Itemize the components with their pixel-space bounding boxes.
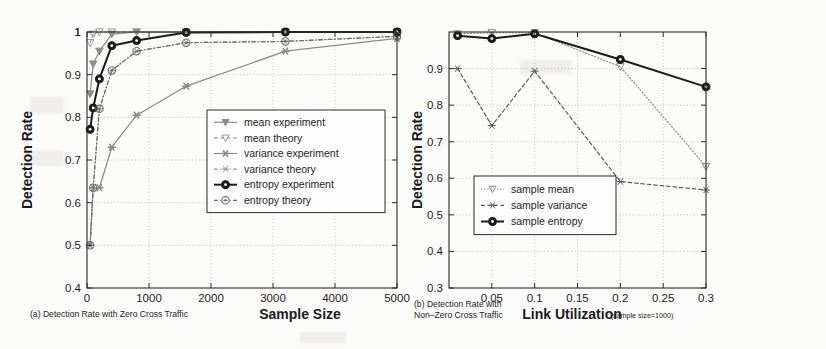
x-tick-label: 5000: [384, 292, 410, 304]
x-tick-label: 0.2: [612, 292, 628, 304]
legend-label: variance theory: [244, 163, 317, 175]
y-tick-label: 0.4: [427, 245, 444, 257]
y-tick-label: 0.9: [427, 63, 443, 75]
x-tick-label: 0.25: [652, 292, 674, 304]
chart-a: 0.40.50.60.70.80.91101000200030004000500…: [0, 0, 414, 349]
x-tick-label: 2000: [198, 292, 224, 304]
series-sample-variance: [454, 66, 710, 193]
y-tick-label: 0.6: [65, 197, 81, 209]
panel-a-caption: (a) Detection Rate with Zero Cross Traff…: [30, 309, 189, 319]
legend-label: sample mean: [511, 183, 574, 195]
panel-b-sample-size-note: (sample size=1000): [611, 311, 674, 320]
x-tick-label: 0: [84, 292, 90, 304]
y-tick-label: 0.7: [65, 154, 81, 166]
x-tick-label: 0.3: [698, 292, 714, 304]
legend-label: sample variance: [511, 199, 588, 211]
y-tick-label: 0.3: [427, 282, 443, 294]
y-tick-label: 0.8: [65, 111, 81, 123]
panel-a-zero-cross-traffic: 0.40.50.60.70.80.91101000200030004000500…: [0, 0, 414, 349]
legend-label: sample entropy: [511, 215, 584, 227]
legend-label: variance experiment: [244, 147, 339, 159]
legend-label: entropy theory: [244, 194, 312, 206]
legend: sample meansample variancesample entropy: [474, 176, 616, 235]
legend-label: mean experiment: [244, 116, 325, 128]
y-tick-label: 0.4: [65, 282, 82, 294]
figure-root: 0.40.50.60.70.80.91101000200030004000500…: [0, 0, 826, 349]
y-tick-label: 0.5: [65, 239, 81, 251]
panel-b-caption-line1: (b) Detection Rate with: [414, 299, 502, 309]
y-axis-title: Detection Rate: [19, 111, 35, 209]
x-tick-label: 0.15: [566, 292, 588, 304]
y-tick-label: 0.8: [427, 99, 443, 111]
x-tick-label: 3000: [260, 292, 286, 304]
y-tick-label: 0.5: [427, 209, 443, 221]
x-tick-label: 0.1: [527, 292, 543, 304]
series-sample-entropy: [454, 30, 710, 91]
panel-b-caption-line2: Non–Zero Cross Traffic: [414, 310, 503, 320]
x-axis-title: Link Utilization: [522, 306, 622, 322]
x-axis-title: Sample Size: [259, 306, 341, 322]
x-tick-label: 4000: [322, 292, 348, 304]
panel-b-nonzero-cross-traffic: 0.30.40.50.60.70.80.90.050.10.150.20.250…: [412, 0, 826, 349]
y-tick-label: 0.6: [427, 172, 443, 184]
axes: 0.30.40.50.60.70.80.90.050.10.150.20.250…: [427, 32, 714, 304]
legend: mean experimentmean theoryvariance exper…: [207, 110, 385, 213]
grid-lines: [449, 32, 706, 288]
series-sample-mean: [454, 30, 710, 171]
legend-label: entropy experiment: [244, 178, 334, 190]
x-tick-label: 1000: [136, 292, 162, 304]
y-tick-label: 0.9: [65, 69, 81, 81]
y-tick-label: 0.7: [427, 136, 443, 148]
legend-label: mean theory: [244, 132, 303, 144]
y-axis-title: Detection Rate: [412, 111, 425, 209]
y-tick-label: 1: [75, 26, 81, 38]
chart-b: 0.30.40.50.60.70.80.90.050.10.150.20.250…: [412, 0, 826, 349]
